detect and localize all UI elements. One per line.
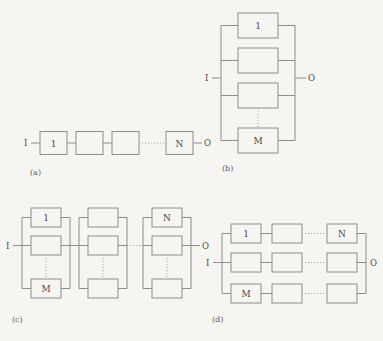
panel-c-g1-block-2 (31, 236, 61, 255)
panel-c-g2-block-3 (88, 279, 118, 298)
panel-d-r3-block-1-label: M (241, 289, 250, 299)
panel-d-row-2 (222, 253, 366, 272)
panel-a-block-3 (112, 132, 139, 155)
panel-a-input-label: I (24, 138, 27, 148)
panel-d-r2-block-1 (231, 253, 261, 272)
panel-c-output-label: O (202, 241, 209, 251)
panel-a-block-n-label: N (176, 139, 184, 149)
panel-a: I 1 N O (a) (24, 132, 211, 177)
panel-b: 1 M I O (b) (205, 13, 315, 173)
panel-c: 1 M (6, 208, 209, 324)
panel-b-block-2 (238, 48, 278, 73)
panel-c-g2-block-2 (88, 236, 118, 255)
panel-a-caption: (a) (30, 168, 41, 177)
panel-b-output-label: O (308, 73, 315, 83)
panel-a-block-2 (76, 132, 103, 155)
panel-c-g1-block-3-label: M (41, 284, 50, 294)
panel-c-group-2 (79, 208, 127, 298)
panel-b-input-label: I (205, 73, 208, 83)
panel-c-input-label: I (6, 241, 9, 251)
panel-a-block-1-label: 1 (51, 139, 57, 149)
panel-d-r3-block-2 (272, 284, 302, 303)
panel-d-r3-block-3 (327, 284, 357, 303)
panel-c-g1-block-1-label: 1 (43, 213, 49, 223)
panel-b-block-m-label: M (253, 136, 262, 146)
panel-b-block-1-label: 1 (255, 21, 261, 31)
panel-b-block-3 (238, 83, 278, 108)
panel-c-g3-block-2 (152, 236, 182, 255)
panel-c-group-3: N (143, 208, 191, 298)
panel-d: 1 N M (206, 224, 377, 324)
panel-c-group-1: 1 M (22, 208, 70, 298)
panel-d-r2-block-3 (327, 253, 357, 272)
panel-c-g2-block-1 (88, 208, 118, 227)
panel-c-g3-block-1-label: N (163, 213, 171, 223)
panel-d-row-3: M (222, 284, 366, 303)
panel-d-r1-block-2 (272, 224, 302, 243)
panel-d-r2-block-2 (272, 253, 302, 272)
panel-d-r1-block-1-label: 1 (243, 229, 249, 239)
panel-a-output-label: O (204, 138, 211, 148)
reliability-block-diagram-figure: I 1 N O (a) 1 M (0, 0, 383, 341)
panel-c-g3-block-3 (152, 279, 182, 298)
panel-d-input-label: I (206, 258, 209, 268)
panel-b-caption: (b) (222, 164, 233, 173)
panel-d-r1-block-3-label: N (338, 229, 346, 239)
panel-d-row-1: 1 N (222, 224, 366, 243)
panel-c-caption: (c) (12, 315, 23, 324)
panel-d-caption: (d) (212, 315, 223, 324)
panel-d-output-label: O (370, 258, 377, 268)
